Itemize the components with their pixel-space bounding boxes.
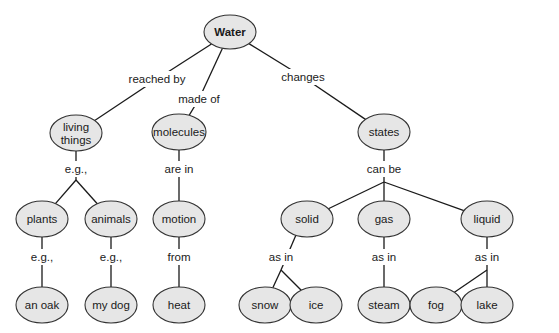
link-label-text: made of bbox=[178, 93, 220, 105]
concept-node-steam: steam bbox=[358, 287, 410, 323]
link-label: as in bbox=[368, 249, 400, 265]
concept-node-living-things: livingthings bbox=[50, 115, 102, 151]
node-label: motion bbox=[162, 213, 197, 225]
link-label: as in bbox=[471, 249, 503, 265]
concept-node-liquid: liquid bbox=[461, 201, 513, 237]
link-label-text: as in bbox=[269, 251, 293, 263]
concept-map: reached bymade ofchangese.g.,are incan b… bbox=[0, 0, 559, 333]
link-label: are in bbox=[161, 161, 197, 177]
link-label-text: as in bbox=[475, 251, 499, 263]
node-label: molecules bbox=[153, 126, 205, 138]
concept-node-fog: fog bbox=[410, 287, 462, 323]
link-label-text: changes bbox=[281, 71, 325, 83]
node-label: an oak bbox=[25, 299, 60, 311]
connector-line bbox=[76, 180, 97, 204]
link-label: can be bbox=[364, 161, 404, 177]
node-label: steam bbox=[368, 299, 399, 311]
node-label: animals bbox=[91, 213, 131, 225]
node-label: snow bbox=[252, 299, 280, 311]
node-label: liquid bbox=[474, 213, 501, 225]
concept-node-heat: heat bbox=[153, 287, 205, 323]
link-label-text: reached by bbox=[129, 73, 186, 85]
link-label-text: as in bbox=[372, 251, 396, 263]
link-label: as in bbox=[265, 249, 297, 265]
link-label: made of bbox=[176, 91, 222, 107]
link-label-text: from bbox=[168, 251, 191, 263]
node-label: my dog bbox=[92, 299, 130, 311]
link-label-text: are in bbox=[165, 163, 194, 175]
concept-node-solid: solid bbox=[281, 201, 333, 237]
connector-line bbox=[273, 270, 281, 288]
node-label: ice bbox=[309, 299, 324, 311]
node-label: things bbox=[61, 134, 92, 146]
concept-node-ice: ice bbox=[290, 287, 342, 323]
node-label: plants bbox=[27, 213, 58, 225]
node-label: living bbox=[63, 121, 89, 133]
link-label: reached by bbox=[127, 71, 187, 87]
concept-map-canvas: reached bymade ofchangese.g.,are incan b… bbox=[0, 0, 559, 333]
node-label: solid bbox=[295, 213, 319, 225]
link-label-text: can be bbox=[367, 163, 402, 175]
node-label: states bbox=[369, 126, 400, 138]
link-label: changes bbox=[280, 69, 326, 85]
node-label: lake bbox=[476, 299, 497, 311]
connector-line bbox=[55, 180, 76, 204]
concept-node-states: states bbox=[358, 114, 410, 150]
concept-node-snow: snow bbox=[239, 287, 291, 323]
link-label: e.g., bbox=[27, 249, 57, 265]
concept-node-motion: motion bbox=[153, 201, 205, 237]
concept-node-an-oak: an oak bbox=[16, 287, 68, 323]
concept-node-molecules: molecules bbox=[152, 114, 206, 150]
connector-line bbox=[281, 270, 301, 290]
concept-node-animals: animals bbox=[85, 201, 137, 237]
link-label: e.g., bbox=[96, 249, 126, 265]
concept-node-lake: lake bbox=[461, 287, 513, 323]
node-label: heat bbox=[168, 299, 191, 311]
node-label: fog bbox=[428, 299, 444, 311]
link-label: from bbox=[164, 249, 194, 265]
concept-node-my-dog: my dog bbox=[85, 287, 137, 323]
concept-node-gas: gas bbox=[358, 201, 410, 237]
link-label-text: e.g., bbox=[65, 163, 87, 175]
link-label: e.g., bbox=[61, 161, 91, 177]
link-label-text: e.g., bbox=[31, 251, 53, 263]
concept-node-plants: plants bbox=[16, 201, 68, 237]
link-label-text: e.g., bbox=[100, 251, 122, 263]
node-label: gas bbox=[375, 213, 394, 225]
node-label: Water bbox=[214, 26, 246, 38]
link-labels-layer: reached bymade ofchangese.g.,are incan b… bbox=[27, 69, 503, 265]
concept-node-water: Water bbox=[204, 15, 256, 49]
